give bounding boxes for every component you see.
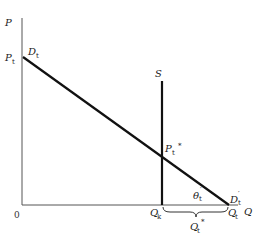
q-k-label: Q k [150, 207, 162, 221]
demand-start-label: D t [27, 46, 39, 60]
svg-text:t: t [36, 52, 39, 60]
x-axis-label: Q [244, 206, 252, 217]
svg-text:*: * [178, 142, 182, 150]
price-intercept-label: P t [4, 52, 15, 66]
quantity-brace [163, 207, 228, 217]
equilibrium-price-label: P t * [164, 142, 182, 157]
y-axis-label: P [4, 17, 12, 28]
svg-text:t: t [199, 195, 202, 203]
svg-text:k: k [157, 213, 162, 221]
supply-demand-diagram: P Q 0 P t D t S P t * θ t ′ D t ′ Q k Q … [0, 0, 269, 233]
q-t-label: Q t [228, 207, 238, 221]
svg-text:P: P [164, 143, 172, 154]
svg-text:t: t [197, 227, 200, 233]
origin-label: 0 [14, 210, 20, 220]
svg-text:*: * [201, 218, 205, 226]
svg-text:′: ′ [238, 190, 240, 198]
demand-line [23, 57, 229, 205]
svg-text:t: t [12, 58, 15, 66]
q-t-star-label: Q t * [190, 218, 205, 233]
svg-text:′: ′ [200, 186, 202, 194]
demand-end-label: D t ′ [229, 190, 241, 207]
supply-label: S [155, 68, 162, 79]
svg-text:D: D [27, 46, 36, 57]
svg-text:P: P [4, 52, 12, 63]
svg-text:t: t [172, 149, 175, 157]
svg-text:t: t [235, 213, 238, 221]
svg-text:D: D [229, 194, 238, 205]
angle-label: θ t ′ [193, 186, 202, 203]
svg-text:t: t [238, 199, 241, 207]
